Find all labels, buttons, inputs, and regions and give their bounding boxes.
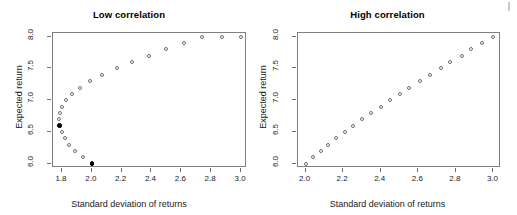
data-point — [319, 149, 323, 153]
data-point — [334, 136, 338, 140]
x-tick — [121, 168, 122, 172]
data-point — [115, 66, 119, 70]
x-tick-label: 3.0 — [487, 174, 498, 183]
y-tick — [47, 67, 51, 68]
data-point — [130, 60, 134, 64]
y-tick — [292, 99, 296, 100]
data-point — [326, 143, 330, 147]
y-tick-label: 8.0 — [26, 19, 35, 49]
x-tick-label: 1.8 — [55, 174, 66, 183]
data-point — [220, 35, 224, 39]
data-point — [448, 60, 452, 64]
corner-artifact — [508, 2, 510, 11]
data-point — [460, 54, 464, 58]
data-point — [439, 66, 443, 70]
data-point — [480, 41, 484, 45]
y-tick-label: 6.0 — [271, 146, 280, 176]
y-tick — [292, 163, 296, 164]
data-point — [57, 117, 61, 121]
data-point — [182, 41, 186, 45]
y-tick — [47, 163, 51, 164]
x-axis-title-low: Standard deviation of returns — [0, 199, 258, 209]
data-point — [63, 136, 67, 140]
x-tick — [91, 168, 92, 172]
data-point — [239, 35, 243, 39]
data-point — [491, 35, 495, 39]
x-tick-label: 2.0 — [299, 174, 310, 183]
data-point — [369, 111, 373, 115]
x-tick-label: 2.2 — [337, 174, 348, 183]
y-tick-label: 7.5 — [271, 51, 280, 81]
x-tick — [342, 168, 343, 172]
data-point — [388, 98, 392, 102]
data-point — [70, 92, 74, 96]
x-tick — [180, 168, 181, 172]
x-tick-label: 2.4 — [374, 174, 385, 183]
panel-low-correlation: Low correlation 1.82.02.22.42.62.83.06.0… — [0, 0, 258, 215]
data-point — [164, 47, 168, 51]
data-point — [81, 155, 85, 159]
panel-title-low: Low correlation — [0, 9, 258, 20]
plot-area-high — [298, 33, 499, 166]
data-point — [200, 35, 204, 39]
y-tick-label: 6.0 — [26, 146, 35, 176]
data-point — [304, 162, 308, 166]
data-point — [407, 86, 411, 90]
x-tick-label: 3.0 — [234, 174, 245, 183]
scatter-figure: Low correlation 1.82.02.22.42.62.83.06.0… — [0, 0, 517, 215]
y-tick — [47, 36, 51, 37]
data-point — [58, 111, 62, 115]
data-point — [343, 130, 347, 134]
data-point — [78, 86, 82, 90]
x-axis-title-high: Standard deviation of returns — [258, 199, 517, 209]
data-point — [428, 73, 432, 77]
x-tick — [380, 168, 381, 172]
data-point — [60, 105, 64, 109]
x-tick — [305, 168, 306, 172]
data-point — [147, 54, 151, 58]
data-point — [311, 155, 315, 159]
data-point — [60, 130, 64, 134]
y-tick-label: 7.0 — [271, 83, 280, 113]
x-tick — [240, 168, 241, 172]
x-tick-label: 2.8 — [449, 174, 460, 183]
data-point — [67, 143, 71, 147]
y-tick — [292, 36, 296, 37]
data-point-highlighted — [57, 123, 62, 128]
panel-high-correlation: High correlation 2.02.22.42.62.83.06.06.… — [258, 0, 517, 215]
y-tick — [47, 131, 51, 132]
y-tick — [292, 67, 296, 68]
x-tick-label: 2.0 — [85, 174, 96, 183]
x-tick-label: 2.2 — [115, 174, 126, 183]
y-tick — [47, 99, 51, 100]
x-tick-label: 2.6 — [412, 174, 423, 183]
plot-frame-high — [297, 32, 500, 167]
y-tick-label: 6.5 — [271, 114, 280, 144]
data-point — [469, 47, 473, 51]
data-point — [379, 105, 383, 109]
x-tick — [455, 168, 456, 172]
data-point-highlighted — [90, 161, 95, 166]
y-tick-label: 8.0 — [271, 19, 280, 49]
data-point — [351, 124, 355, 128]
data-point — [100, 73, 104, 77]
data-point — [398, 92, 402, 96]
data-point — [64, 98, 68, 102]
plot-area-low — [53, 33, 245, 166]
data-point — [360, 117, 364, 121]
x-tick — [492, 168, 493, 172]
y-tick-label: 7.5 — [26, 51, 35, 81]
y-tick-label: 7.0 — [26, 83, 35, 113]
y-axis-title-low: Expected return — [14, 42, 24, 152]
x-tick-label: 2.8 — [205, 174, 216, 183]
data-point — [88, 79, 92, 83]
plot-frame-low — [52, 32, 246, 167]
panel-title-high: High correlation — [258, 9, 517, 20]
x-tick-label: 2.4 — [145, 174, 156, 183]
y-tick-label: 6.5 — [26, 114, 35, 144]
x-tick — [150, 168, 151, 172]
y-tick — [292, 131, 296, 132]
data-point — [418, 79, 422, 83]
x-tick-label: 2.6 — [175, 174, 186, 183]
data-point — [73, 149, 77, 153]
